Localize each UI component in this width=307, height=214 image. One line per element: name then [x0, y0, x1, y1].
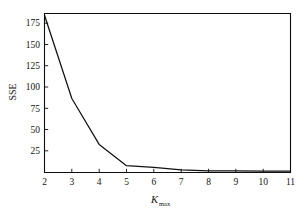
ytick-label-75: 75	[31, 104, 41, 114]
y-axis-ticks	[45, 23, 49, 151]
xtick-label-3: 3	[69, 177, 74, 187]
plot-frame	[45, 14, 291, 173]
xtick-label-6: 6	[151, 177, 156, 187]
x-axis-tick-labels: 2 3 4 5 6 7 8 9 10 11	[42, 177, 295, 187]
ytick-label-50: 50	[31, 125, 41, 135]
xtick-label-11: 11	[286, 177, 295, 187]
x-axis-title-base: K	[150, 194, 159, 205]
sse-elbow-chart: 175 150 125 100 75 50 25 2 3 4 5	[0, 0, 307, 214]
y-axis-tick-labels: 175 150 125 100 75 50 25	[26, 18, 41, 156]
ytick-label-100: 100	[26, 82, 41, 92]
x-axis-title-subscript: max	[159, 200, 171, 207]
chart-figure: 175 150 125 100 75 50 25 2 3 4 5	[0, 0, 307, 214]
ytick-label-125: 125	[26, 61, 41, 71]
x-axis-title: K max	[150, 194, 171, 207]
y-axis-title-label: SSE	[7, 83, 18, 100]
xtick-label-2: 2	[42, 177, 47, 187]
xtick-label-7: 7	[179, 177, 184, 187]
ytick-label-150: 150	[26, 40, 41, 50]
ytick-label-25: 25	[31, 146, 41, 156]
sse-data-line	[45, 15, 291, 171]
xtick-label-10: 10	[258, 177, 268, 187]
xtick-label-5: 5	[124, 177, 129, 187]
y-axis-title: SSE	[7, 83, 18, 100]
xtick-label-8: 8	[206, 177, 211, 187]
ytick-label-175: 175	[26, 18, 41, 28]
xtick-label-4: 4	[97, 177, 102, 187]
xtick-label-9: 9	[233, 177, 238, 187]
